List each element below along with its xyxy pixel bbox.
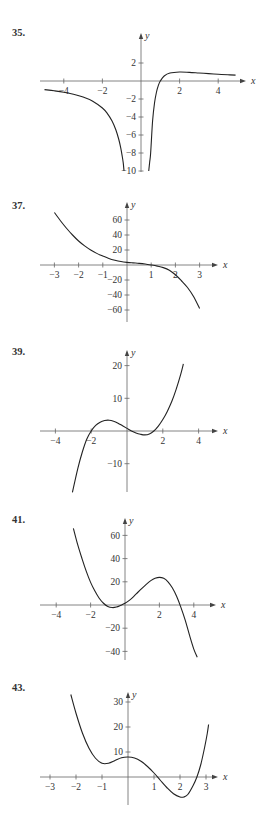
x-tick-label: −4 (59, 86, 69, 96)
y-tick-label: −6 (126, 130, 136, 140)
y-axis-arrow-icon (126, 692, 130, 698)
graph-p41: xy−4−224604020−20−40 (40, 515, 226, 660)
x-axis-label: x (222, 771, 228, 782)
x-axis-label: x (222, 425, 228, 436)
y-axis-arrow-icon (125, 350, 129, 356)
graph-p43: xy−3−2−1123302010 (40, 689, 228, 805)
y-tick-label: −20 (105, 623, 120, 633)
y-tick-label: 20 (113, 361, 123, 371)
y-tick-label: 10 (113, 394, 123, 404)
y-tick-label: −20 (107, 275, 122, 285)
y-tick-label: −4 (126, 112, 136, 122)
y-tick-label: 40 (111, 554, 121, 564)
x-tick-label: −4 (50, 436, 60, 446)
y-tick-label: 10 (114, 747, 124, 757)
y-tick-label: −10 (107, 459, 122, 469)
x-axis-arrow-icon (210, 603, 216, 607)
curve-left-branch (45, 90, 125, 171)
x-tick-label: −2 (86, 610, 96, 620)
y-axis-arrow-icon (125, 202, 129, 208)
y-tick-label: 20 (114, 722, 124, 732)
y-axis-label: y (131, 689, 137, 700)
y-tick-label: 30 (114, 697, 124, 707)
x-axis-label: x (250, 75, 256, 86)
y-tick-label: −40 (105, 647, 120, 657)
y-tick-label: −40 (107, 290, 122, 300)
x-tick-label: 2 (160, 436, 165, 446)
x-tick-label: 3 (204, 782, 209, 792)
x-tick-label: −3 (45, 782, 55, 792)
graph-p39: xy−4−2242010−10 (40, 347, 228, 492)
curve-f (73, 528, 197, 657)
curve-f (72, 364, 183, 493)
y-tick-label: 20 (113, 245, 123, 255)
y-axis-arrow-icon (123, 518, 127, 524)
x-tick-label: 3 (197, 270, 202, 280)
y-tick-label: 2 (131, 58, 136, 68)
graphs-canvas: xy−4−2242−2−4−6−8−10xy−3−2−1123604020−20… (0, 0, 264, 817)
x-tick-label: 2 (177, 86, 182, 96)
x-tick-label: −3 (49, 270, 59, 280)
x-tick-label: −4 (51, 610, 61, 620)
x-tick-label: −1 (97, 782, 107, 792)
x-tick-label: 2 (157, 610, 162, 620)
y-tick-label: 40 (113, 230, 123, 240)
x-tick-label: 4 (191, 610, 196, 620)
x-axis-label: x (222, 259, 228, 270)
x-axis-label: x (220, 599, 226, 610)
x-tick-label: −2 (74, 270, 84, 280)
x-axis-arrow-icon (212, 263, 218, 267)
x-axis-arrow-icon (212, 429, 218, 433)
y-tick-label: 60 (113, 215, 123, 225)
x-tick-label: 4 (216, 86, 221, 96)
graph-p35: xy−4−2242−2−4−6−8−10 (40, 30, 256, 176)
y-axis-label: y (144, 30, 150, 41)
x-tick-label: −2 (71, 782, 81, 792)
y-axis-arrow-icon (139, 33, 143, 39)
y-axis-label: y (130, 347, 136, 358)
x-axis-arrow-icon (212, 775, 218, 779)
y-tick-label: −2 (126, 94, 136, 104)
x-tick-label: −2 (97, 86, 107, 96)
y-tick-label: 20 (111, 577, 121, 587)
y-axis-label: y (128, 515, 134, 526)
x-tick-label: 1 (149, 270, 154, 280)
x-tick-label: 4 (196, 436, 201, 446)
curve-right-branch (149, 72, 236, 171)
graph-p37: xy−3−2−1123604020−20−40−60 (40, 199, 228, 322)
y-tick-label: −60 (107, 305, 122, 315)
x-axis-arrow-icon (240, 79, 246, 83)
y-axis-label: y (130, 199, 136, 210)
y-tick-label: −8 (126, 148, 136, 158)
curve-f (71, 695, 209, 798)
x-tick-label: 1 (152, 782, 157, 792)
x-tick-label: 2 (178, 782, 183, 792)
y-tick-label: 60 (111, 531, 121, 541)
